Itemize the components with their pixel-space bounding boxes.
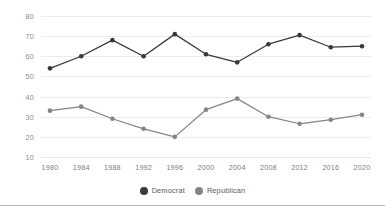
data-point[interactable] (235, 96, 240, 101)
x-tick-label: 1984 (73, 163, 90, 172)
y-tick-label: 40 (26, 92, 34, 101)
series-line-republican (50, 99, 362, 137)
x-tick-label: 2008 (260, 163, 277, 172)
y-tick-label: 60 (26, 52, 34, 61)
data-point[interactable] (360, 112, 365, 117)
series-democrat (48, 32, 365, 71)
circle-marker-icon (140, 187, 148, 195)
data-point[interactable] (329, 117, 334, 122)
series-republican (48, 96, 365, 139)
data-point[interactable] (110, 116, 115, 121)
data-point[interactable] (48, 66, 53, 71)
x-tick-label: 2004 (229, 163, 246, 172)
data-point[interactable] (204, 52, 209, 57)
legend-entry-democrat[interactable]: Democrat (140, 186, 185, 195)
data-series-layer (41, 16, 371, 157)
y-tick-label: 70 (26, 32, 34, 41)
y-tick-label: 30 (26, 112, 34, 121)
line-chart-card: 8070605040302010 19801984198819921996200… (0, 0, 385, 205)
legend-label: Republican (207, 186, 245, 195)
data-point[interactable] (173, 32, 178, 37)
x-tick-label: 2000 (198, 163, 215, 172)
data-point[interactable] (173, 135, 178, 140)
y-tick-label: 80 (26, 12, 34, 21)
plot-area (41, 16, 371, 157)
x-tick-label: 1988 (104, 163, 121, 172)
data-point[interactable] (297, 121, 302, 126)
x-tick-label: 2012 (291, 163, 308, 172)
data-point[interactable] (204, 107, 209, 112)
legend-label: Democrat (152, 186, 185, 195)
data-point[interactable] (235, 60, 240, 65)
circle-marker-icon (195, 187, 203, 195)
data-point[interactable] (329, 45, 334, 50)
chart-screenshot: 8070605040302010 19801984198819921996200… (0, 0, 385, 214)
data-point[interactable] (141, 127, 146, 132)
y-tick-label: 10 (26, 153, 34, 162)
x-tick-label: 2016 (322, 163, 339, 172)
data-point[interactable] (79, 104, 84, 109)
x-tick-label: 1980 (42, 163, 59, 172)
x-axis-tick-labels: 1980198419881992199620002004200820122016… (41, 163, 371, 177)
y-tick-label: 20 (26, 132, 34, 141)
y-axis-tick-labels: 8070605040302010 (0, 0, 41, 180)
series-line-democrat (50, 34, 362, 68)
data-point[interactable] (110, 38, 115, 43)
data-point[interactable] (48, 108, 53, 113)
data-point[interactable] (141, 54, 146, 59)
x-tick-label: 2020 (354, 163, 371, 172)
x-tick-label: 1992 (135, 163, 152, 172)
x-axis-line (41, 157, 371, 158)
x-tick-label: 1996 (166, 163, 183, 172)
data-point[interactable] (79, 54, 84, 59)
data-point[interactable] (360, 44, 365, 49)
data-point[interactable] (266, 114, 271, 119)
legend-entry-republican[interactable]: Republican (195, 186, 245, 195)
data-point[interactable] (297, 33, 302, 38)
y-tick-label: 50 (26, 72, 34, 81)
data-point[interactable] (266, 42, 271, 47)
chart-legend: DemocratRepublican (0, 183, 385, 198)
bottom-strip (0, 206, 385, 214)
